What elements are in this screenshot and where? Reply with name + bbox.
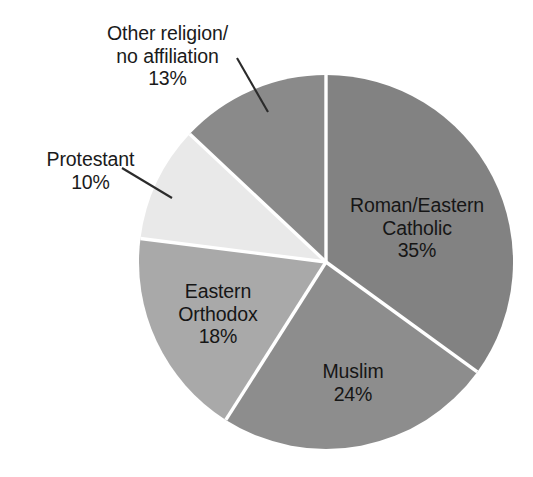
slice-value-catholic: 35% bbox=[327, 239, 507, 262]
slice-value-muslim: 24% bbox=[288, 383, 418, 406]
slice-label-muslim-line1: Muslim bbox=[288, 360, 418, 383]
slice-label-catholic-line1: Roman/Eastern bbox=[327, 194, 507, 217]
slice-label-other-line2: no affiliation bbox=[60, 45, 275, 68]
slice-label-orthodox-line1: Eastern bbox=[148, 280, 288, 303]
slice-label-protestant: Protestant 10% bbox=[8, 148, 173, 193]
slice-value-protestant: 10% bbox=[8, 171, 173, 194]
slice-label-catholic-line2: Catholic bbox=[327, 217, 507, 240]
slice-label-orthodox: Eastern Orthodox 18% bbox=[148, 280, 288, 348]
slice-label-other-line1: Other religion/ bbox=[60, 22, 275, 45]
slice-label-catholic: Roman/Eastern Catholic 35% bbox=[327, 194, 507, 262]
slice-value-orthodox: 18% bbox=[148, 325, 288, 348]
slice-label-muslim: Muslim 24% bbox=[288, 360, 418, 405]
slice-value-other: 13% bbox=[60, 67, 275, 90]
slice-label-other: Other religion/ no affiliation 13% bbox=[60, 22, 275, 90]
slice-label-protestant-line1: Protestant bbox=[8, 148, 173, 171]
pie-chart: Other religion/ no affiliation 13% Prote… bbox=[0, 0, 533, 477]
slice-label-orthodox-line2: Orthodox bbox=[148, 303, 288, 326]
